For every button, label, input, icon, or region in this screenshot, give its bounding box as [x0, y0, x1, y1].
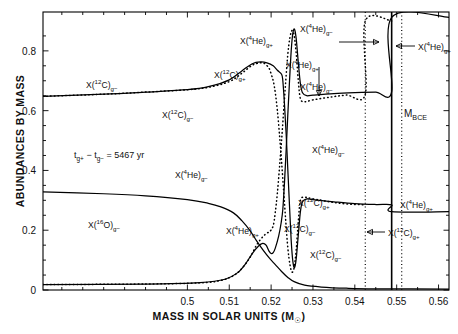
solar-symbol: ☉	[294, 316, 301, 325]
y-tick-label: 0.6	[8, 105, 36, 116]
curve-label-c12-gminus-low2: X(12C)g−	[310, 248, 342, 262]
series-x16og-	[43, 192, 449, 289]
x-axis-label-text: MASS IN SOLAR UNITS (M	[153, 310, 295, 322]
y-tick-label: 0	[8, 285, 36, 296]
series-x4heg	[43, 12, 449, 285]
x-tick-label: 0.54	[345, 296, 364, 307]
curve-label-c12-gminus-low: X(12C)g−	[284, 222, 316, 236]
curve-label-c12-gplus-farright: X(12C)g+	[388, 226, 420, 240]
x-axis-label: MASS IN SOLAR UNITS (M☉)	[0, 310, 458, 325]
curve-label-o16-gminus: X(16O)g−	[88, 218, 120, 232]
x-tick-label: 0.55	[387, 296, 406, 307]
curve-label-c12-gplus-lowmid: X(12C)g+	[298, 196, 330, 210]
y-tick-label: 0.4	[8, 165, 36, 176]
curve-label-he4-gminus-top: X(4He)g−	[300, 22, 333, 36]
mbce-subscript: BCE	[412, 113, 427, 122]
x-tick-label: 0.51	[220, 296, 239, 307]
abundance-profile-plot	[0, 0, 458, 334]
y-tick-label: 0.8	[8, 45, 36, 56]
x-tick-label: 0.5	[180, 296, 194, 307]
curve-label-he4-gplus-right: X(4He)g+	[418, 40, 451, 54]
curve-label-he4-gminus-plateau: X(4He)g−	[300, 80, 333, 94]
timescale-annotation: tg+ − tg− = 5467 yr	[74, 150, 144, 162]
curve-label-he4-gminus-mid: X(4He)g−	[175, 168, 208, 182]
curve-label-he4-gplus-arrowright: X(4He)g+	[240, 34, 273, 48]
curve-label-he4-gplus-farright: X(4He)g+	[400, 198, 433, 212]
figure: MASS IN SOLAR UNITS (M☉) ABUNDANCES BY M…	[0, 0, 458, 334]
x-axis-label-paren: )	[302, 310, 306, 322]
curve-label-he4-gplus-low: X(4He)g+	[226, 224, 259, 238]
x-tick-label: 0.56	[429, 296, 448, 307]
mbce-annotation: MBCE	[404, 108, 427, 122]
curve-label-he4-gplus-arrowdown: X(4He)g+	[286, 58, 319, 72]
x-tick-label: 0.52	[261, 296, 280, 307]
x-tick-label: 0.53	[303, 296, 322, 307]
curve-label-c12-gminus-mid: X(12C)g−	[162, 108, 194, 122]
curve-label-c12-gplus-upper: X(12C)g+	[214, 68, 246, 82]
curve-label-he4-gminus-right: X(4He)g−	[312, 143, 345, 157]
curve-label-c12-gminus-left: X(12C)g−	[86, 78, 118, 92]
y-tick-label: 0.2	[8, 225, 36, 236]
